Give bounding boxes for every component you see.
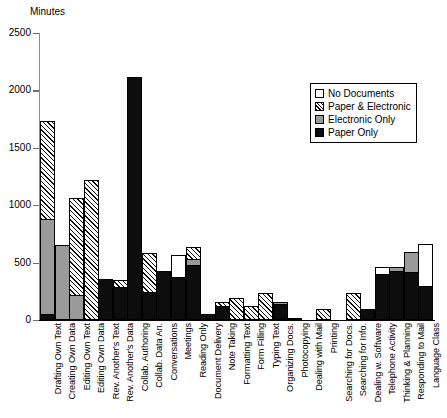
x-tick-label-6: Collab. Authoring [140,323,150,391]
x-tick-label-23: Telephone Activity [387,323,397,395]
bar-segment-paper-only [375,274,390,320]
bar-segment-electronic-only [69,295,84,320]
bar-2 [69,198,84,320]
x-tick-label-11: Document Delivery [213,323,223,399]
bar-segment-paper-only [200,314,215,320]
bar-4 [98,279,113,320]
bar-segment-no-documents [375,267,390,274]
y-axis-title: Minutes [30,6,65,17]
x-tick-label-0: Drafting Own Text [53,323,63,394]
bar-25 [404,252,419,320]
bar-segment-paper-only [404,272,419,320]
x-tick-label-19: Printing [329,323,339,353]
x-tick-label-22: Dealing w. Software [373,323,383,402]
x-tick-label-7: Collab. Data An. [154,323,164,388]
x-tick-label-12: Note Taking [227,323,237,370]
x-tick-label-16: Organizing Docs. [285,323,295,392]
bar-segment-paper-only [40,314,55,320]
x-axis-line [39,320,435,321]
bar-13 [229,298,244,320]
bar-segment-paper-only [142,292,157,320]
legend-label-paper-only: Paper Only [328,127,378,138]
bar-26 [418,244,433,320]
legend-label-paper-and-electronic: Paper & Electronic [328,101,411,112]
bar-segment-paper-electronic [84,180,99,320]
bar-11 [200,314,215,320]
bar-10 [186,247,201,320]
bar-segment-paper-electronic [69,198,84,295]
bar-segment-electronic-only [40,219,55,314]
bar-segment-paper-electronic [287,318,302,320]
bar-24 [389,267,404,320]
bar-segment-paper-electronic [258,293,273,320]
legend-item-electronic-only: Electronic Only [315,113,411,126]
bar-segment-paper-electronic [229,298,244,320]
x-tick-label-24: Thinking & Planning [402,323,412,403]
bar-12 [215,302,230,320]
legend-swatch-paper-and-electronic-icon [315,102,324,111]
x-tick-label-9: Meetings [183,323,193,359]
bar-segment-paper-only [98,279,113,320]
bar-segment-paper-only [215,306,230,320]
bar-segment-no-documents [171,255,186,277]
y-tick-label-2500: 2500 [9,27,31,38]
legend-item-paper-only: Paper Only [315,126,411,139]
x-tick-label-20: Searching for Docs. [344,323,354,402]
bar-segment-paper-electronic [244,306,259,320]
bar-segment-paper-only [171,277,186,320]
x-tick-label-17: Photocopying [300,323,310,377]
bar-segment-paper-electronic [40,121,55,219]
y-axis-tick-labels: 05001000150020002500 [0,0,31,418]
bar-segment-paper-only [156,271,171,320]
y-tick-label-1500: 1500 [9,142,31,153]
legend-item-no-documents: No Documents [315,87,411,100]
bar-5 [113,280,128,320]
bar-segment-paper-only [127,77,142,320]
x-tick-label-1: Creating Own Data [67,323,77,399]
bar-16 [273,302,288,320]
bar-15 [258,293,273,320]
x-tick-label-14: Form Filling [256,323,266,370]
bar-1 [55,245,70,320]
bar-segment-paper-electronic [316,309,331,320]
bar-19 [316,309,331,320]
bar-21 [346,293,361,320]
bar-segment-paper-only [273,304,288,320]
bar-segment-paper-electronic [142,253,157,293]
x-tick-label-18: Dealing with Mail [314,323,324,391]
x-tick-label-15: Typing Text [271,323,281,368]
chart-legend: No Documents Paper & Electronic Electron… [310,83,417,143]
x-tick-label-25: Responding to Mail [416,323,426,400]
bar-series-area [40,33,435,320]
x-tick-label-21: Searching for Info. [358,323,368,396]
bar-segment-electronic-only [404,252,419,273]
bar-7 [142,253,157,320]
x-axis-tick-labels: Drafting Own TextCreating Own DataEditin… [40,323,440,418]
x-tick-label-5: Rev. Another's Data [125,323,135,402]
bar-6 [127,77,142,320]
bar-17 [287,318,302,320]
y-tick-label-2000: 2000 [9,84,31,95]
bar-0 [40,121,55,320]
bar-22 [360,309,375,320]
y-tick-label-500: 500 [14,257,31,268]
bar-14 [244,306,259,320]
bar-segment-paper-electronic [346,293,361,320]
bar-segment-paper-only [389,271,404,320]
bar-segment-paper-only [186,265,201,320]
bar-segment-no-documents [418,244,433,285]
x-tick-label-26: Language Class [431,323,441,388]
x-tick-label-8: Conversations [169,323,179,380]
bar-9 [171,255,186,320]
bar-segment-paper-only [360,309,375,320]
x-tick-label-3: Editing Own Data [96,323,106,393]
legend-label-electronic-only: Electronic Only [328,114,395,125]
bar-segment-electronic-only [55,245,70,320]
legend-item-paper-and-electronic: Paper & Electronic [315,100,411,113]
x-tick-label-4: Rev. Another's Text [111,323,121,399]
y-tick-label-0: 0 [25,314,31,325]
bar-segment-paper-only [113,287,128,320]
bar-segment-paper-electronic [113,280,128,287]
bar-23 [375,267,390,320]
bar-chart: Minutes 05001000150020002500 Drafting Ow… [0,0,447,418]
